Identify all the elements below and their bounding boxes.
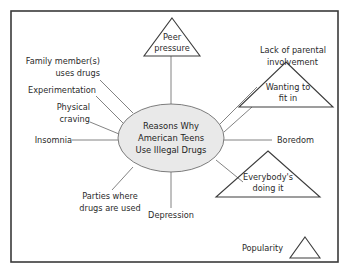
label-parties-line2: drugs are used: [79, 203, 140, 213]
spoke-physical-craving: [90, 122, 119, 134]
legend-label-popularity: Popularity: [242, 243, 283, 253]
label-everybodys-doing-it-line2: doing it: [253, 183, 285, 193]
label-wanting-to-fit-in-line2: fit in: [279, 93, 297, 103]
center-label-line1: Reasons Why: [143, 121, 199, 131]
spoke-everybodys-doing-it: [216, 160, 243, 182]
label-physical-craving-line1: Physical: [57, 102, 90, 112]
spoke-lack-of-parental: [220, 87, 257, 124]
label-everybodys-doing-it-line1: Everybody's: [243, 172, 293, 182]
label-family-member-line1: Family member(s): [26, 56, 100, 66]
spoke-family-member: [100, 80, 133, 113]
center-label-line3: Use Illegal Drugs: [136, 145, 207, 155]
label-boredom: Boredom: [277, 135, 314, 145]
label-peer-pressure-line1: Peer: [163, 32, 182, 42]
label-insomnia: Insomnia: [35, 135, 72, 145]
diagram-canvas: Reasons Why American Teens Use Illegal D…: [0, 0, 350, 277]
label-lack-of-parental-line2: involvement: [267, 57, 319, 67]
spoke-parties: [112, 167, 133, 190]
radial-diagram: Reasons Why American Teens Use Illegal D…: [0, 0, 350, 277]
label-wanting-to-fit-in-line1: Wanting to: [266, 82, 310, 92]
center-label-line2: American Teens: [138, 133, 204, 143]
triangle-icon: [290, 237, 320, 258]
label-peer-pressure-line2: pressure: [154, 43, 189, 53]
label-experimentation: Experimentation: [28, 85, 96, 95]
label-lack-of-parental-line1: Lack of parental: [260, 45, 326, 55]
label-parties-line1: Parties where: [82, 191, 138, 201]
label-family-member-line2: uses drugs: [55, 68, 100, 78]
label-depression: Depression: [148, 210, 194, 220]
label-physical-craving-line2: craving: [60, 114, 90, 124]
spoke-wanting-to-fit-in: [224, 107, 252, 132]
